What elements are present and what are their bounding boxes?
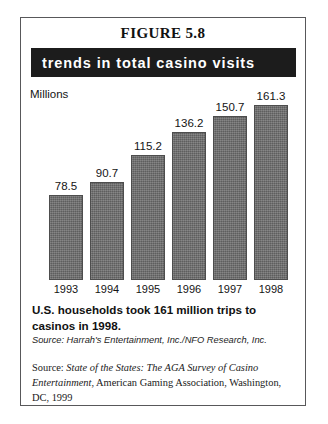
bar xyxy=(49,195,83,280)
chart-title-text: trends in total casino visits xyxy=(31,55,255,71)
bar-value-label: 161.3 xyxy=(257,90,286,102)
figure-card: FIGURE 5.8 trends in total casino visits… xyxy=(20,17,306,406)
x-axis-labels: 199319941995199619971998 xyxy=(31,283,297,299)
bar-column: 150.7 xyxy=(213,90,247,280)
bar xyxy=(131,155,165,280)
x-axis-label: 1995 xyxy=(131,283,165,295)
bar xyxy=(213,116,247,280)
bar xyxy=(90,182,124,280)
bar-value-label: 90.7 xyxy=(96,167,118,179)
figure-caption: U.S. households took 161 million trips t… xyxy=(32,302,290,333)
figure-heading: FIGURE 5.8 xyxy=(21,25,305,42)
bar xyxy=(254,105,288,280)
chart-title-banner: trends in total casino visits xyxy=(31,48,296,77)
bar-value-label: 150.7 xyxy=(216,101,245,113)
bar-value-label: 115.2 xyxy=(134,140,162,152)
bar xyxy=(172,132,206,280)
x-axis-label: 1997 xyxy=(213,283,247,295)
bar-value-label: 78.5 xyxy=(55,180,77,192)
x-axis-label: 1996 xyxy=(172,283,206,295)
bar-column: 78.5 xyxy=(49,90,83,280)
bar-chart-plot-area: 78.590.7115.2136.2150.7161.3 xyxy=(31,90,297,280)
x-axis-label: 1998 xyxy=(254,283,288,295)
source-primary: Source: Harrah's Entertainment, Inc./NFO… xyxy=(32,335,294,345)
bar-column: 136.2 xyxy=(172,90,206,280)
bar-value-label: 136.2 xyxy=(175,117,204,129)
x-axis-label: 1993 xyxy=(49,283,83,295)
bar-column: 115.2 xyxy=(131,90,165,280)
x-axis-label: 1994 xyxy=(90,283,124,295)
bar-column: 90.7 xyxy=(90,90,124,280)
source-secondary: Source: State of the States: The AGA Sur… xyxy=(32,360,290,405)
bar-column: 161.3 xyxy=(254,90,288,280)
source-secondary-prefix: Source: xyxy=(32,362,66,373)
